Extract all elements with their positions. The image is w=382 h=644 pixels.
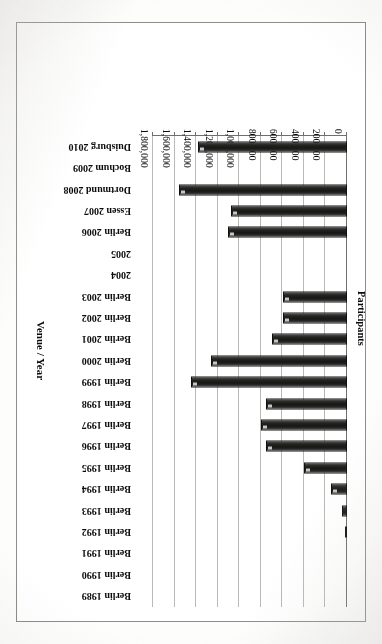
bar-row: 2004	[152, 264, 347, 285]
bar[interactable]	[283, 312, 347, 323]
category-label: Berlin 2003	[82, 292, 131, 302]
bar-end-highlight	[263, 426, 267, 429]
category-label: Berlin 1990	[82, 570, 131, 580]
bar[interactable]	[272, 334, 347, 345]
rotated-figure: 0200,000400,000600,000800,0001,000,0001,…	[0, 0, 382, 644]
bar-row: Berlin 1992	[152, 521, 347, 542]
category-label: Berlin 2001	[82, 334, 131, 344]
bar-row: Berlin 1989	[152, 586, 347, 607]
category-label: 2005	[111, 249, 131, 259]
bar[interactable]	[266, 441, 347, 452]
category-label: Essen 2007	[84, 206, 131, 216]
bar-end-highlight	[285, 318, 289, 321]
category-label: Berlin 1995	[82, 463, 131, 473]
category-label: Berlin 1989	[82, 591, 131, 601]
category-label: Dortmund 2008	[63, 185, 131, 195]
category-label: Berlin 1993	[82, 506, 131, 516]
category-label: Berlin 1999	[82, 377, 131, 387]
category-label: Bochum 2009	[73, 163, 131, 173]
bar-row: Dortmund 2008	[152, 179, 347, 200]
bar[interactable]	[228, 227, 347, 238]
bar-row: 2005	[152, 243, 347, 264]
chart-frame: 0200,000400,000600,000800,0001,000,0001,…	[16, 22, 366, 622]
category-label: Berlin 1994	[82, 484, 131, 494]
category-label: Berlin 2000	[82, 356, 131, 366]
bar-end-highlight	[230, 233, 234, 236]
category-label: Duisburg 2010	[68, 142, 131, 152]
category-label: Berlin 1997	[82, 420, 131, 430]
category-axis-title: Venue / Year	[35, 321, 47, 380]
bar-row: Berlin 1998	[152, 393, 347, 414]
bar[interactable]	[331, 484, 347, 495]
bar-end-highlight	[200, 147, 204, 150]
bar[interactable]	[342, 505, 347, 516]
bar[interactable]	[191, 377, 347, 388]
bar-row: Berlin 1997	[152, 414, 347, 435]
bar[interactable]	[198, 141, 347, 152]
bar-row: Berlin 2001	[152, 329, 347, 350]
bar[interactable]	[211, 355, 347, 366]
bar[interactable]	[261, 420, 347, 431]
bar-row: Berlin 2006	[152, 222, 347, 243]
bar-end-highlight	[333, 490, 337, 493]
bar-end-highlight	[181, 190, 185, 193]
category-label: Berlin 2006	[82, 227, 131, 237]
bar-end-highlight	[285, 297, 289, 300]
bar[interactable]	[304, 462, 347, 473]
bar[interactable]	[179, 184, 347, 195]
bar-row: Berlin 1999	[152, 372, 347, 393]
bar-end-highlight	[274, 340, 278, 343]
category-label: 2004	[111, 270, 131, 280]
bar-row: Berlin 2000	[152, 350, 347, 371]
category-label: Berlin 1992	[82, 527, 131, 537]
category-label: Berlin 2002	[82, 313, 131, 323]
bar-row: Berlin 1993	[152, 500, 347, 521]
scanned-page: 0200,000400,000600,000800,0001,000,0001,…	[0, 0, 382, 644]
bar[interactable]	[283, 291, 347, 302]
value-tick-label: 0	[333, 129, 343, 134]
bar-row: Duisburg 2010	[152, 136, 347, 157]
bar-row: Berlin 2002	[152, 307, 347, 328]
bar-end-highlight	[306, 468, 310, 471]
bar-row: Berlin 1991	[152, 543, 347, 564]
bar-series: Berlin 1989Berlin 1990Berlin 1991Berlin …	[152, 136, 347, 607]
bar-end-highlight	[268, 404, 272, 407]
value-axis-title: Participants	[356, 291, 367, 346]
bar-end-highlight	[268, 447, 272, 450]
bar-end-highlight	[233, 211, 237, 214]
bar-row: Essen 2007	[152, 200, 347, 221]
bar-row: Bochum 2009	[152, 157, 347, 178]
category-label: Berlin 1998	[82, 399, 131, 409]
bar-chart: 0200,000400,000600,000800,0001,000,0001,…	[17, 23, 365, 621]
bar-row: Berlin 1990	[152, 564, 347, 585]
bar-row: Berlin 2003	[152, 286, 347, 307]
bar-row: Berlin 1996	[152, 436, 347, 457]
bar[interactable]	[266, 398, 347, 409]
bar-end-highlight	[193, 383, 197, 386]
bar-end-highlight	[213, 361, 217, 364]
category-label: Berlin 1996	[82, 441, 131, 451]
bar[interactable]	[231, 205, 347, 216]
category-label: Berlin 1991	[82, 548, 131, 558]
bar-row: Berlin 1994	[152, 479, 347, 500]
bar-row: Berlin 1995	[152, 457, 347, 478]
bar[interactable]	[345, 527, 347, 538]
value-tick-label: 1,800,000	[139, 129, 149, 168]
